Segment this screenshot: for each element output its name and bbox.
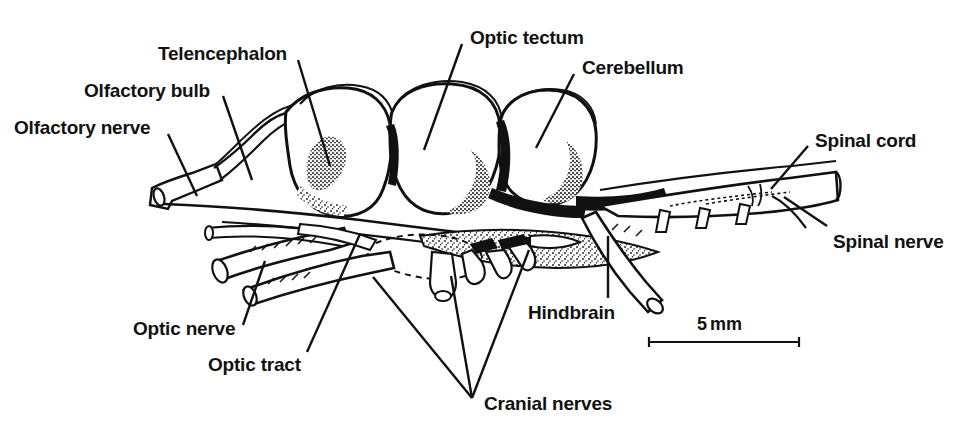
scale-bar-label: 5mm bbox=[697, 315, 742, 333]
leader-lines bbox=[168, 44, 827, 398]
brain-anatomy-figure: Olfactory nerve Olfactory bulb Telenceph… bbox=[0, 0, 966, 427]
leader-olfactory-bulb bbox=[223, 96, 252, 180]
spinal-cord-shape bbox=[600, 161, 841, 217]
label-cerebellum: Cerebellum bbox=[582, 58, 683, 77]
label-optic-nerve: Optic nerve bbox=[133, 319, 235, 338]
cerebellum-shape bbox=[499, 89, 596, 205]
scale-bar bbox=[649, 337, 799, 347]
optic-tectum-shape bbox=[390, 81, 502, 214]
scale-bar-value: 5 bbox=[697, 314, 707, 334]
label-olfactory-bulb: Olfactory bulb bbox=[84, 81, 210, 100]
scale-bar-unit: mm bbox=[710, 314, 742, 334]
label-spinal-cord: Spinal cord bbox=[815, 131, 916, 150]
label-optic-tectum: Optic tectum bbox=[470, 28, 584, 47]
leader-cranial-nerve-2 bbox=[451, 276, 472, 398]
brain-drawing bbox=[0, 0, 966, 427]
label-spinal-nerve: Spinal nerve bbox=[833, 232, 944, 251]
telencephalon-shape bbox=[285, 85, 394, 216]
label-hindbrain: Hindbrain bbox=[528, 303, 615, 322]
leader-cranial-nerve-1 bbox=[373, 277, 472, 398]
brain-body-group bbox=[150, 81, 841, 316]
label-cranial-nerves: Cranial nerves bbox=[484, 394, 612, 413]
label-telencephalon: Telencephalon bbox=[158, 44, 287, 63]
label-olfactory-nerve: Olfactory nerve bbox=[14, 118, 150, 137]
label-optic-tract: Optic tract bbox=[208, 355, 301, 374]
